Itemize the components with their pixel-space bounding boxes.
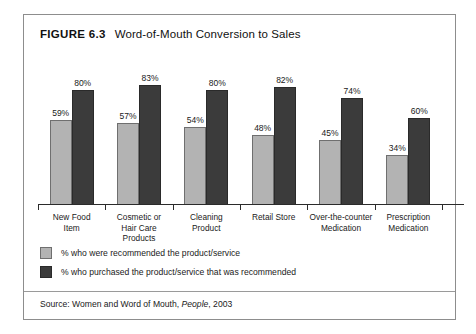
bar: 48% [252,135,274,204]
legend-label: % who were recommended the product/servi… [61,248,240,258]
axis-tick [240,205,241,210]
bar-column: 57% [117,123,139,205]
source-divider [24,291,455,292]
bar-group: 34%60% [375,61,442,204]
axis-tick [375,205,376,210]
source-note: Source: Women and Word of Mouth, People,… [40,299,232,309]
bar: 82% [274,87,296,204]
bar-value-label: 57% [119,111,136,121]
bar: 34% [386,155,408,204]
chart-plot-area: 59%80%57%83%54%80%48%82%45%74%34%60% [38,61,442,204]
axis-tick [307,205,308,210]
bar-value-label: 82% [276,75,293,85]
bar: 45% [319,140,341,204]
bar-column: 82% [274,87,296,204]
bar-group: 48%82% [240,61,307,204]
bar-group: 54%80% [173,61,240,204]
axis-tick [38,205,39,210]
figure-title: FIGURE 6.3Word-of-Mouth Conversion to Sa… [40,28,301,40]
figure-caption: Word-of-Mouth Conversion to Sales [115,28,301,40]
axis-tick [442,205,443,210]
bar-value-label: 80% [209,78,226,88]
category-label: PrescriptionMedication [375,212,442,244]
bar-value-label: 59% [52,108,69,118]
bar: 60% [408,118,430,204]
source-suffix: , 2003 [208,299,232,309]
figure-number: FIGURE 6.3 [40,28,106,40]
legend-swatch [40,266,52,278]
bar-value-label: 45% [321,128,338,138]
figure-frame: FIGURE 6.3Word-of-Mouth Conversion to Sa… [23,14,456,320]
bar: 54% [184,127,206,204]
bar-value-label: 60% [411,106,428,116]
legend-label: % who purchased the product/service that… [61,267,296,277]
bar-column: 34% [386,155,408,204]
source-publication: People [182,299,209,309]
bar-column: 48% [252,135,274,204]
bar-group: 57%83% [105,61,172,204]
bar: 80% [206,90,228,204]
bar-value-label: 34% [389,143,406,153]
bar-value-label: 80% [74,78,91,88]
category-label: Over-the-counterMedication [307,212,374,244]
legend-item: % who were recommended the product/servi… [40,247,296,259]
x-axis-ticks [38,205,464,210]
axis-tick [105,205,106,210]
bar-column: 80% [206,90,228,204]
bar: 80% [72,90,94,204]
bar-value-label: 83% [141,73,158,83]
bar-value-label: 54% [187,115,204,125]
bar-group: 45%74% [307,61,374,204]
bar-group: 59%80% [38,61,105,204]
bar-column: 83% [139,85,161,204]
x-axis-category-labels: New FoodItemCosmetic orHair CareProducts… [38,212,442,244]
bar-column: 54% [184,127,206,204]
bar-column: 45% [319,140,341,204]
category-label: Cosmetic orHair CareProducts [105,212,172,244]
bar-value-label: 48% [254,123,271,133]
bar-column: 60% [408,118,430,204]
category-label: CleaningProduct [173,212,240,244]
bar: 83% [139,85,161,204]
category-label: New FoodItem [38,212,105,244]
bar-value-label: 74% [343,86,360,96]
axis-tick [173,205,174,210]
legend-item: % who purchased the product/service that… [40,266,296,278]
bar: 74% [341,98,363,204]
category-label: Retail Store [240,212,307,244]
bar-column: 80% [72,90,94,204]
bar: 59% [50,120,72,204]
legend-swatch [40,247,52,259]
bar: 57% [117,123,139,205]
chart-legend: % who were recommended the product/servi… [40,247,296,285]
bar-column: 59% [50,120,72,204]
bar-column: 74% [341,98,363,204]
bar-groups: 59%80%57%83%54%80%48%82%45%74%34%60% [38,61,442,204]
source-prefix: Source: Women and Word of Mouth, [40,299,179,309]
